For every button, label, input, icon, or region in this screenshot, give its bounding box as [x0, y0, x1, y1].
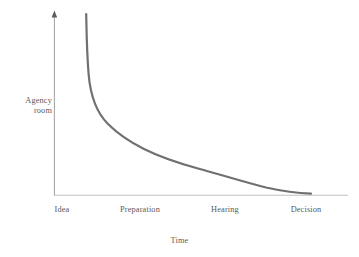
- y-axis-label-line-2: room: [8, 106, 52, 116]
- x-tick-label-decision: Decision: [266, 205, 346, 215]
- y-axis-label: Agencyroom: [8, 96, 52, 116]
- x-axis-title: Time: [0, 236, 359, 246]
- y-axis-label-line-1: Agency: [8, 96, 52, 106]
- x-tick-label-idea: Idea: [22, 205, 102, 215]
- decay-curve: [86, 14, 311, 194]
- chart-figure: Agencyroom Idea Preparation Hearing Deci…: [0, 0, 359, 257]
- x-tick-label-preparation: Preparation: [100, 205, 180, 215]
- chart-plot-area: [0, 0, 359, 257]
- x-tick-label-hearing: Hearing: [185, 205, 265, 215]
- y-axis-arrow-icon: [52, 11, 58, 18]
